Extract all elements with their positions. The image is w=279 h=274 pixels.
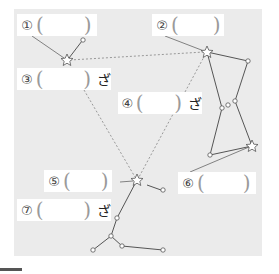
close-paren: ) [84, 15, 92, 35]
number-badge: ③ [20, 72, 34, 86]
number-badge: ⑦ [20, 203, 34, 217]
constellation-suffix: ざ [97, 200, 111, 220]
open-paren: ( [171, 15, 179, 35]
number-badge: ② [155, 18, 169, 32]
number-badge: ① [20, 18, 34, 32]
star-icon [246, 140, 258, 152]
open-paren: ( [63, 171, 71, 191]
close-paren: ) [101, 171, 109, 191]
answer-label-3[interactable]: ③ ( ) ざ [17, 68, 111, 90]
constellation-suffix: ざ [97, 69, 111, 89]
answer-label-6[interactable]: ⑥ ( ) [178, 172, 256, 194]
number-badge: ④ [121, 96, 134, 110]
star-icon [201, 46, 213, 58]
number-badge: ⑤ [47, 174, 61, 188]
close-paren: ) [213, 15, 221, 35]
open-paren: ( [136, 93, 144, 113]
constellation-suffix: ざ [188, 93, 202, 113]
page-edge-bar [0, 268, 22, 271]
answer-label-4[interactable]: ④ ( ) ざ [118, 92, 202, 114]
open-paren: ( [36, 15, 44, 35]
answer-label-2[interactable]: ② ( ) [152, 14, 224, 36]
number-badge: ⑥ [181, 176, 195, 190]
close-paren: ) [83, 200, 91, 220]
open-paren: ( [197, 173, 205, 193]
answer-label-5[interactable]: ⑤ ( ) [44, 170, 112, 192]
open-paren: ( [36, 200, 44, 220]
open-paren: ( [36, 69, 44, 89]
close-paren: ) [83, 69, 91, 89]
answer-label-1[interactable]: ① ( ) [17, 14, 97, 36]
star-icon [131, 174, 143, 186]
constellation-diagram [0, 0, 279, 274]
close-paren: ) [243, 173, 251, 193]
answer-label-7[interactable]: ⑦ ( ) ざ [17, 199, 111, 221]
close-paren: ) [174, 93, 182, 113]
